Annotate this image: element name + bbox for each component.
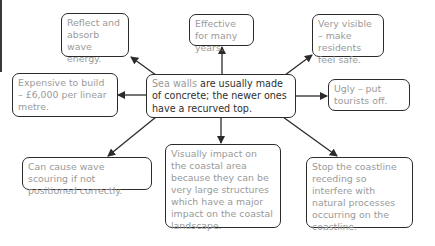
node-expensive-text: Expensive to build – £6,000 per linear m… bbox=[18, 77, 107, 112]
node-visual: Visually impact on the coastal area beca… bbox=[165, 144, 281, 228]
arrow-to-coastline bbox=[283, 117, 337, 156]
node-scouring: Can cause wave scouring if not positione… bbox=[22, 157, 152, 190]
node-ugly-text: Ugly – put tourists off. bbox=[334, 83, 387, 106]
node-effective: Effective for many years. bbox=[189, 14, 254, 46]
node-visual-text: Visually impact on the coastal area beca… bbox=[171, 148, 273, 231]
node-visible: Very visible – make residents feel safe. bbox=[312, 14, 384, 57]
node-coastline-text: Stop the coastline receding so interfere… bbox=[312, 161, 397, 232]
node-center-sea-walls: Sea walls are usually made of concrete; … bbox=[146, 74, 296, 118]
center-highlight: Sea walls bbox=[152, 78, 197, 89]
node-ugly: Ugly – put tourists off. bbox=[328, 79, 410, 111]
node-scouring-text: Can cause wave scouring if not positione… bbox=[28, 161, 122, 196]
node-reflect-text: Reflect and absorb wave energy. bbox=[67, 17, 120, 64]
node-reflect: Reflect and absorb wave energy. bbox=[61, 13, 129, 57]
node-expensive: Expensive to build – £6,000 per linear m… bbox=[12, 73, 118, 117]
node-coastline: Stop the coastline receding so interfere… bbox=[306, 157, 413, 228]
arrow-to-scouring bbox=[108, 117, 156, 156]
